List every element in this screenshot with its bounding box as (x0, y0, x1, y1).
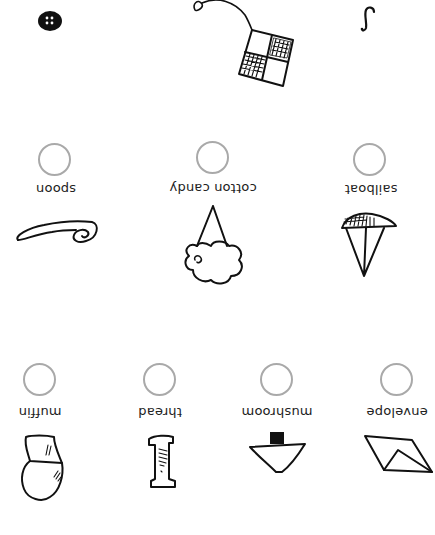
hook-icon (358, 4, 382, 36)
label-envelope: envelope (366, 405, 427, 420)
answer-circle-mushroom[interactable] (260, 363, 293, 396)
answer-circle-cotton-candy[interactable] (196, 141, 229, 174)
answer-circle-spoon[interactable] (38, 143, 71, 176)
label-sailboat: sailboat (345, 182, 398, 197)
label-mushroom: mushroom (241, 405, 312, 420)
label-thread: thread (138, 405, 182, 420)
mushroom-icon (248, 430, 308, 480)
answer-circle-muffin[interactable] (23, 363, 56, 396)
spoon-icon (14, 210, 98, 246)
button-icon (33, 6, 69, 36)
label-spoon: spoon (36, 182, 76, 197)
answer-circle-thread[interactable] (143, 363, 176, 396)
envelope-icon (362, 432, 434, 484)
cut-off-footer-text (0, 522, 435, 535)
label-muffin: muffin (18, 405, 61, 420)
thread-icon (145, 433, 179, 491)
label-cotton-candy: cotton candy (169, 181, 256, 196)
muffin-icon (18, 433, 68, 505)
answer-circle-sailboat[interactable] (353, 143, 386, 176)
tea-bag-icon (190, 0, 310, 95)
cotton-candy-icon (183, 204, 249, 290)
sailboat-icon (336, 208, 402, 280)
answer-circle-envelope[interactable] (380, 363, 413, 396)
